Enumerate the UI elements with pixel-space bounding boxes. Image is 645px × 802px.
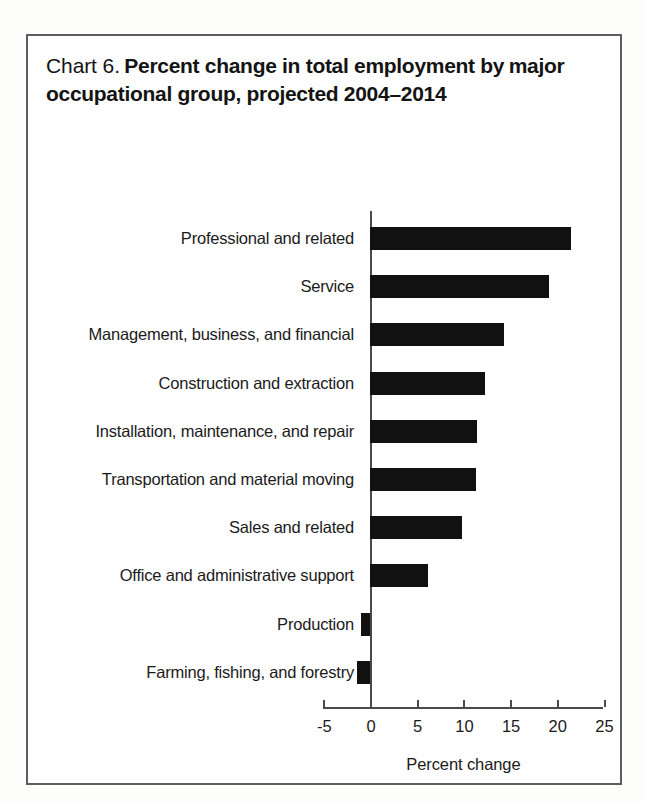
x-axis-tick: [463, 700, 465, 707]
chart-figure-frame: Chart 6. Percent change in total employm…: [26, 34, 622, 785]
bar: [370, 227, 571, 250]
bar: [361, 613, 370, 636]
bar: [370, 564, 428, 587]
x-axis-title: Percent change: [313, 755, 613, 774]
bar: [370, 323, 504, 346]
category-label: Office and administrative support: [24, 566, 354, 585]
category-label: Professional and related: [24, 229, 354, 248]
category-label: Sales and related: [24, 518, 354, 537]
x-axis-line: [323, 707, 603, 709]
bar: [357, 661, 370, 684]
plot-area: Percent change Professional and relatedS…: [28, 36, 624, 787]
category-label: Construction and extraction: [24, 374, 354, 393]
x-axis-tick-label: 25: [595, 717, 613, 736]
x-axis-tick: [323, 700, 325, 707]
x-axis-tick-label: -5: [317, 717, 332, 736]
bar: [370, 468, 476, 491]
x-axis-tick: [604, 700, 606, 707]
category-label: Management, business, and financial: [24, 325, 354, 344]
bar: [370, 372, 485, 395]
page-background: Chart 6. Percent change in total employm…: [0, 0, 645, 802]
category-label: Installation, maintenance, and repair: [24, 422, 354, 441]
x-axis-tick: [417, 700, 419, 707]
x-axis-tick-label: 20: [549, 717, 567, 736]
bar: [370, 420, 477, 443]
x-axis-tick: [370, 700, 372, 707]
x-axis-tick-label: 10: [455, 717, 473, 736]
x-axis-tick: [510, 700, 512, 707]
x-axis-tick-label: 15: [502, 717, 520, 736]
bar: [370, 275, 549, 298]
category-label: Production: [24, 615, 354, 634]
bar: [370, 516, 462, 539]
category-label: Transportation and material moving: [24, 470, 354, 489]
x-axis-tick-label: 0: [366, 717, 375, 736]
category-label: Service: [24, 277, 354, 296]
x-axis-tick-label: 5: [413, 717, 422, 736]
category-label: Farming, fishing, and forestry: [24, 663, 354, 682]
x-axis-tick: [557, 700, 559, 707]
